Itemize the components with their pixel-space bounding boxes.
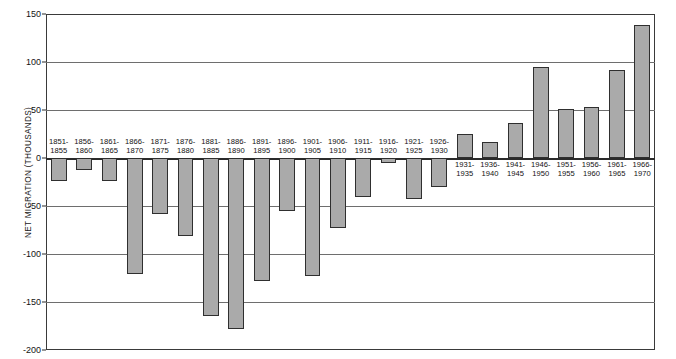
bar-group: 1896-1900 bbox=[274, 14, 299, 350]
bar[interactable] bbox=[305, 158, 321, 276]
bar-category-label: 1956-1960 bbox=[582, 161, 601, 178]
bar-category-label: 1871-1875 bbox=[150, 138, 169, 155]
bar-category-label-line2: 1860 bbox=[74, 147, 93, 156]
bar-category-label-line2: 1950 bbox=[531, 170, 550, 179]
bar[interactable] bbox=[634, 25, 650, 158]
bar-group: 1871-1875 bbox=[148, 14, 173, 350]
bar-group: 1961-1965 bbox=[604, 14, 629, 350]
bar-category-label: 1856-1860 bbox=[74, 138, 93, 155]
bar-category-label-line2: 1930 bbox=[430, 147, 449, 156]
bar[interactable] bbox=[431, 158, 447, 187]
bar-category-label: 1921-1925 bbox=[404, 138, 423, 155]
bar-category-label-line2: 1870 bbox=[125, 147, 144, 156]
bar[interactable] bbox=[406, 158, 422, 199]
bar-category-label-line2: 1965 bbox=[607, 170, 626, 179]
bar[interactable] bbox=[482, 142, 498, 158]
bar-category-label: 1896-1900 bbox=[277, 138, 296, 155]
bar-group: 1911-1915 bbox=[351, 14, 376, 350]
bar-category-label: 1936-1940 bbox=[480, 161, 499, 178]
y-tick-label: 50 bbox=[31, 105, 41, 115]
bar[interactable] bbox=[152, 158, 168, 214]
bar-category-label-line2: 1890 bbox=[227, 147, 246, 156]
bar-category-label-line2: 1955 bbox=[556, 170, 575, 179]
bar-group: 1881-1885 bbox=[198, 14, 223, 350]
bar-category-label-line2: 1910 bbox=[328, 147, 347, 156]
bar-category-label: 1916-1920 bbox=[379, 138, 398, 155]
bar-group: 1926-1930 bbox=[427, 14, 452, 350]
y-tick-label: 0 bbox=[36, 153, 41, 163]
bar[interactable] bbox=[228, 158, 244, 329]
bar-category-label-line2: 1925 bbox=[404, 147, 423, 156]
y-tick-label: 150 bbox=[26, 9, 41, 19]
bar[interactable] bbox=[609, 70, 625, 158]
bar[interactable] bbox=[584, 107, 600, 158]
bar-group: 1851-1855 bbox=[46, 14, 71, 350]
bar-category-label-line2: 1880 bbox=[176, 147, 195, 156]
bar-category-label: 1906-1910 bbox=[328, 138, 347, 155]
bar-category-label: 1926-1930 bbox=[430, 138, 449, 155]
bar-category-label-line2: 1915 bbox=[354, 147, 373, 156]
bar-category-label-line2: 1865 bbox=[100, 147, 119, 156]
bar-category-label: 1931-1935 bbox=[455, 161, 474, 178]
bar-group: 1906-1910 bbox=[325, 14, 350, 350]
bar-category-label: 1961-1965 bbox=[607, 161, 626, 178]
bar-category-label-line2: 1855 bbox=[49, 147, 68, 156]
bar-category-label-line2: 1940 bbox=[480, 170, 499, 179]
y-tick-label: 100 bbox=[26, 57, 41, 67]
bar-group: 1946-1950 bbox=[528, 14, 553, 350]
y-tick-label: -200 bbox=[23, 345, 41, 355]
bar-group: 1936-1940 bbox=[477, 14, 502, 350]
bar[interactable] bbox=[457, 134, 473, 158]
bar-category-label: 1876-1880 bbox=[176, 138, 195, 155]
bar-group: 1856-1860 bbox=[71, 14, 96, 350]
bar-group: 1941-1945 bbox=[503, 14, 528, 350]
bar[interactable] bbox=[178, 158, 194, 236]
bar-group: 1916-1920 bbox=[376, 14, 401, 350]
bar-group: 1861-1865 bbox=[97, 14, 122, 350]
bar-group: 1901-1905 bbox=[300, 14, 325, 350]
bar-group: 1921-1925 bbox=[401, 14, 426, 350]
bar[interactable] bbox=[508, 123, 524, 158]
bar-category-label-line2: 1885 bbox=[201, 147, 220, 156]
y-tick-label: -50 bbox=[28, 201, 41, 211]
bar-group: 1866-1870 bbox=[122, 14, 147, 350]
bar-category-label: 1851-1855 bbox=[49, 138, 68, 155]
bar-group: 1956-1960 bbox=[579, 14, 604, 350]
bar[interactable] bbox=[51, 158, 67, 181]
bar-category-label: 1901-1905 bbox=[303, 138, 322, 155]
bar-group: 1951-1955 bbox=[554, 14, 579, 350]
bar[interactable] bbox=[558, 109, 574, 158]
bar-group: 1876-1880 bbox=[173, 14, 198, 350]
bar[interactable] bbox=[355, 158, 371, 197]
bar-category-label: 1886-1890 bbox=[227, 138, 246, 155]
bar-group: 1886-1890 bbox=[224, 14, 249, 350]
plot-area: 150100500-50-100-150-200 1851-18551856-1… bbox=[46, 14, 655, 350]
bar-category-label: 1866-1870 bbox=[125, 138, 144, 155]
y-tick-label: -100 bbox=[23, 249, 41, 259]
bar-category-label-line2: 1905 bbox=[303, 147, 322, 156]
bar-category-label-line2: 1900 bbox=[277, 147, 296, 156]
bar[interactable] bbox=[533, 67, 549, 158]
bar-category-label: 1941-1945 bbox=[506, 161, 525, 178]
bar[interactable] bbox=[102, 158, 118, 181]
bar-group: 1891-1895 bbox=[249, 14, 274, 350]
bar-category-label-line2: 1945 bbox=[506, 170, 525, 179]
y-tick-label: -150 bbox=[23, 297, 41, 307]
bar-category-label: 1881-1885 bbox=[201, 138, 220, 155]
bar-group: 1966-1970 bbox=[630, 14, 655, 350]
bar[interactable] bbox=[381, 158, 397, 163]
bar[interactable] bbox=[254, 158, 270, 281]
bar-category-label-line2: 1920 bbox=[379, 147, 398, 156]
bar-category-label-line2: 1960 bbox=[582, 170, 601, 179]
bar-category-label: 1946-1950 bbox=[531, 161, 550, 178]
bar[interactable] bbox=[203, 158, 219, 316]
bar-category-label-line2: 1875 bbox=[150, 147, 169, 156]
bar-group: 1931-1935 bbox=[452, 14, 477, 350]
bar[interactable] bbox=[279, 158, 295, 211]
bar-category-label-line2: 1895 bbox=[252, 147, 271, 156]
bar-category-label: 1861-1865 bbox=[100, 138, 119, 155]
bar[interactable] bbox=[76, 158, 92, 170]
bar-category-label: 1966-1970 bbox=[633, 161, 652, 178]
bar[interactable] bbox=[127, 158, 143, 274]
bar[interactable] bbox=[330, 158, 346, 228]
